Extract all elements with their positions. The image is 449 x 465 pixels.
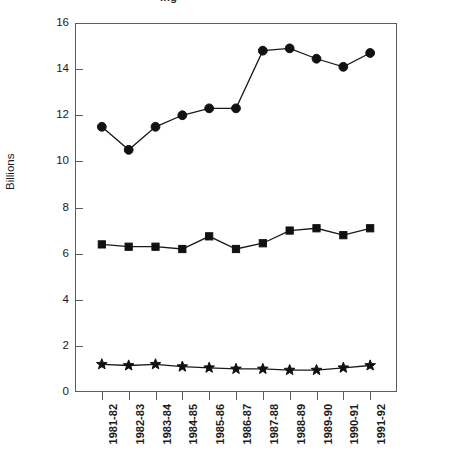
x-tick-label: 1982-83 (134, 404, 146, 444)
y-tick-mark (75, 69, 83, 70)
x-tick-mark (182, 392, 183, 400)
y-tick-label: 14 (45, 63, 69, 75)
y-tick-mark (75, 208, 83, 209)
y-tick-label: 10 (45, 156, 69, 168)
y-tick-mark (75, 161, 83, 162)
x-tick-label: 1986-87 (241, 404, 253, 444)
y-tick-label: 16 (45, 17, 69, 29)
x-tick-mark (209, 392, 210, 400)
y-tick-mark (75, 115, 83, 116)
x-tick-mark (343, 392, 344, 400)
x-tick-mark (102, 392, 103, 400)
y-axis-label: Billions (4, 154, 16, 190)
x-tick-label: 1984-85 (187, 404, 199, 444)
x-tick-mark (156, 392, 157, 400)
x-tick-label: 1987-88 (268, 404, 280, 444)
y-tick-mark (75, 300, 83, 301)
x-tick-label: 1981-82 (107, 404, 119, 444)
x-tick-mark (129, 392, 130, 400)
y-tick-label: 0 (45, 386, 69, 398)
y-tick-label: 2 (45, 340, 69, 352)
x-tick-label: 1990-91 (348, 404, 360, 444)
x-tick-label: 1988-89 (295, 404, 307, 444)
plot-area (75, 23, 397, 392)
y-tick-label: 12 (45, 110, 69, 122)
x-tick-label: 1985-86 (214, 404, 226, 444)
chart-figure: ing Billions 0246810121416 1981-821982-8… (0, 0, 449, 465)
chart-title-fragment: ing (160, 0, 230, 3)
x-tick-label: 1983-84 (161, 404, 173, 444)
y-tick-label: 4 (45, 294, 69, 306)
y-tick-label: 8 (45, 202, 69, 214)
x-tick-mark (290, 392, 291, 400)
x-tick-label: 1991-92 (375, 404, 387, 444)
x-tick-mark (370, 392, 371, 400)
y-tick-mark (75, 254, 83, 255)
x-tick-mark (236, 392, 237, 400)
y-tick-label: 6 (45, 248, 69, 260)
y-axis-tick-labels: 0246810121416 (43, 0, 69, 465)
y-tick-mark (75, 346, 83, 347)
x-tick-label: 1989-90 (322, 404, 334, 444)
x-tick-mark (317, 392, 318, 400)
x-tick-mark (263, 392, 264, 400)
